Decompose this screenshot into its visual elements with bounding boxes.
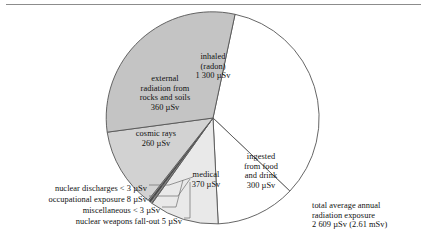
- total-line-2: radiation exposure: [312, 211, 387, 221]
- label-line: ingested: [244, 152, 278, 162]
- slice-label-nuclear-discharges: nuclear discharges < 3 µSv: [55, 184, 147, 194]
- figure-canvas: inhaled (radon) 1 300 µSv external radia…: [0, 0, 427, 249]
- label-line: rocks and soils: [140, 93, 191, 103]
- label-line: inhaled: [195, 52, 230, 62]
- label-line: cosmic rays: [136, 129, 176, 139]
- label-line: and drink: [244, 171, 278, 181]
- slice-label-external-radiation: external radiation from rocks and soils …: [140, 74, 191, 112]
- slice-label-ingested-food-drink: ingested from food and drink 300 µSv: [244, 152, 278, 190]
- label-value: 370 µSv: [192, 180, 221, 190]
- slice-label-miscellaneous: miscellaneous < 3 µSv: [83, 206, 160, 216]
- total-exposure-annotation: total average annual radiation exposure …: [312, 201, 387, 230]
- label-value: 260 µSv: [136, 139, 176, 149]
- label-line: external: [140, 74, 191, 84]
- slice-label-cosmic-rays: cosmic rays 260 µSv: [136, 129, 176, 148]
- label-value: 300 µSv: [244, 181, 278, 191]
- label-line: from food: [244, 162, 278, 172]
- slice-label-medical: medical 370 µSv: [192, 170, 221, 189]
- slice-label-nuclear-weapons-fallout: nuclear weapons fall-out 5 µSv: [76, 217, 182, 227]
- label-line: (radon): [195, 62, 230, 72]
- total-line-1: total average annual: [312, 201, 387, 211]
- slice-label-occupational-exposure: occupational exposure 8 µSv: [48, 195, 147, 205]
- slice-label-inhaled-radon: inhaled (radon) 1 300 µSv: [195, 52, 230, 81]
- total-line-3: 2 609 µSv (2.61 mSv): [312, 220, 387, 230]
- label-line: medical: [192, 170, 221, 180]
- label-value: 1 300 µSv: [195, 71, 230, 81]
- label-line: radiation from: [140, 84, 191, 94]
- label-value: 360 µSv: [140, 103, 191, 113]
